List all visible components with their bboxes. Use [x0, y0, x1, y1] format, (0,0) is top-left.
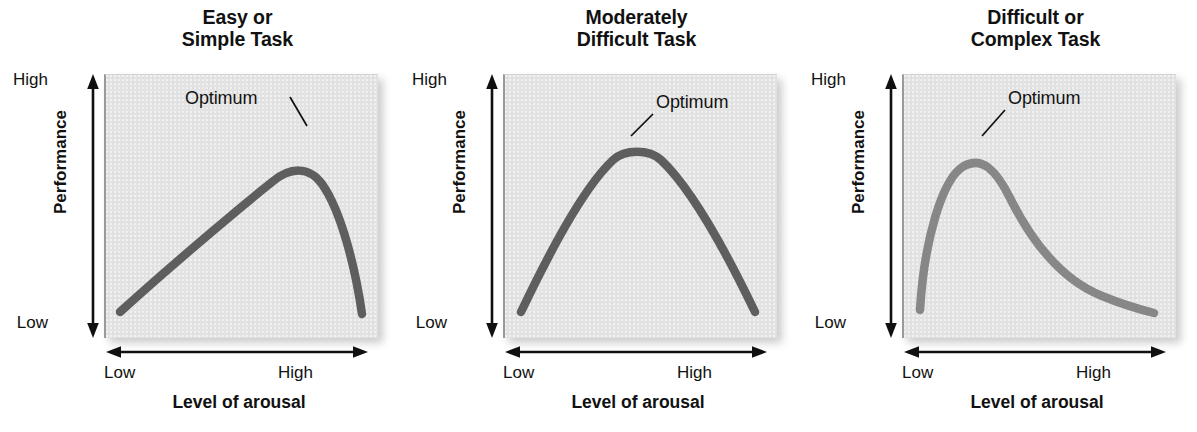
optimum-leader-line: [104, 74, 378, 338]
arousal-performance-figure: Easy or Simple Task High Low Performance…: [0, 0, 1197, 432]
x-axis-arrow: [904, 345, 1166, 359]
plot-wrap: Optimum: [503, 74, 777, 338]
optimum-leader-line: [503, 74, 777, 338]
x-axis-high-label: High: [278, 363, 313, 383]
panel-title: Difficult or Complex Task: [798, 6, 1197, 50]
plot-wrap: Optimum: [902, 74, 1176, 338]
optimum-leader-line: [902, 74, 1176, 338]
panel-title: Easy or Simple Task: [0, 6, 399, 50]
x-axis-arrow: [505, 345, 767, 359]
y-axis-title: Performance: [849, 92, 869, 232]
panel-moderately-difficult-task: Moderately Difficult Task High Low Perfo…: [399, 0, 798, 432]
y-axis-arrow: [86, 74, 100, 338]
y-axis-high-label: High: [0, 70, 48, 90]
panel-title-text: Difficult or Complex Task: [971, 6, 1101, 50]
x-axis-arrow: [106, 345, 368, 359]
y-axis-title: Performance: [51, 92, 71, 232]
x-axis-high-label: High: [677, 363, 712, 383]
y-axis-low-label: Low: [0, 313, 48, 333]
x-axis-low-label: Low: [104, 363, 135, 383]
x-axis-title: Level of arousal: [503, 392, 773, 413]
x-axis-low-label: Low: [503, 363, 534, 383]
x-axis-title: Level of arousal: [104, 392, 374, 413]
y-axis-low-label: Low: [798, 313, 846, 333]
y-axis-arrow: [485, 74, 499, 338]
panel-title-text: Easy or Simple Task: [182, 6, 293, 50]
panel-easy-or-simple-task: Easy or Simple Task High Low Performance…: [0, 0, 399, 432]
y-axis-high-label: High: [399, 70, 447, 90]
y-axis-low-label: Low: [399, 313, 447, 333]
panel-title-text: Moderately Difficult Task: [577, 6, 697, 50]
x-axis-low-label: Low: [902, 363, 933, 383]
y-axis-high-label: High: [798, 70, 846, 90]
x-axis-title: Level of arousal: [902, 392, 1172, 413]
y-axis-arrow: [884, 74, 898, 338]
y-axis-title: Performance: [450, 92, 470, 232]
plot-wrap: Optimum: [104, 74, 378, 338]
x-axis-high-label: High: [1076, 363, 1111, 383]
panel-difficult-or-complex-task: Difficult or Complex Task High Low Perfo…: [798, 0, 1197, 432]
panel-title: Moderately Difficult Task: [399, 6, 798, 50]
